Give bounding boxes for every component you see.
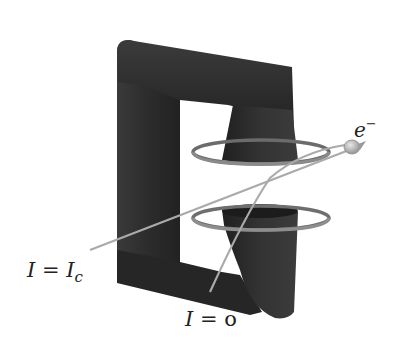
critical-current-label: I = Ic <box>26 258 84 286</box>
electron <box>344 140 360 154</box>
electron-label: e− <box>354 116 377 142</box>
zero-current-label: I = o <box>184 307 237 331</box>
core-upper-pole <box>222 105 298 164</box>
magnetic-core-diagram: e− I = Ic I = o <box>0 0 399 363</box>
